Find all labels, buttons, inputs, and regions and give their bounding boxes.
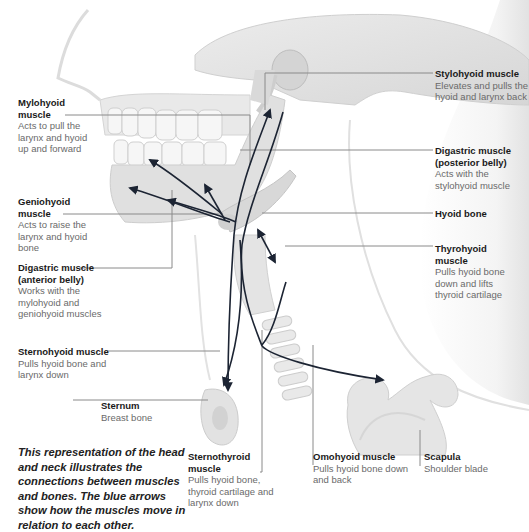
label-desc: Pulls hyoid bone down and back: [313, 463, 423, 486]
label-title: Mylohyoid muscle: [18, 97, 88, 120]
label-title: Sternothyroid muscle: [188, 451, 278, 474]
label-title: Thyrohyoid muscle: [435, 243, 515, 266]
label-thyrohyoid-muscle: Thyrohyoid muscle Pulls hyoid bone down …: [435, 243, 515, 301]
label-sternothyroid-muscle: Sternothyroid muscle Pulls hyoid bone, t…: [188, 451, 278, 509]
figure-caption: This representation of the head and neck…: [18, 445, 193, 532]
label-title: Hyoid bone: [435, 208, 529, 220]
sternum-clavicle: [201, 389, 238, 445]
label-mylohyoid-muscle: Mylohyoid muscle Acts to pull the larynx…: [18, 97, 88, 155]
label-desc: Elevates and pulls the hyoid and larynx …: [435, 80, 529, 103]
label-desc: Pulls hyoid bone, thyroid cartilage and …: [188, 474, 278, 509]
label-hyoid-bone: Hyoid bone: [435, 208, 529, 220]
label-title: Stylohyoid muscle: [435, 68, 529, 80]
label-title: Scapula: [424, 451, 514, 463]
label-desc: Acts to raise the larynx and hyoid bone: [18, 219, 88, 254]
label-desc: Acts to pull the larynx and hyoid up and…: [18, 120, 88, 155]
label-title: Digastric muscle (anterior belly): [18, 262, 118, 285]
label-title: Omohyoid muscle: [313, 451, 423, 463]
label-stylohyoid-muscle: Stylohyoid muscle Elevates and pulls the…: [435, 68, 529, 103]
scapula-bone: [347, 374, 458, 455]
label-desc: Breast bone: [101, 412, 171, 424]
label-digastric-posterior: Digastric muscle (posterior belly) Acts …: [435, 145, 529, 191]
label-scapula: Scapula Shoulder blade: [424, 451, 514, 474]
label-title: Sternum: [101, 400, 171, 412]
label-desc: Acts with the stylohyoid muscle: [435, 168, 529, 191]
label-desc: Works with the mylohyoid and geniohyoid …: [18, 285, 118, 320]
label-desc: Shoulder blade: [424, 463, 514, 475]
label-sternum: Sternum Breast bone: [101, 400, 171, 423]
label-sternohyoid-muscle: Sternohyoid muscle Pulls hyoid bone and …: [18, 346, 128, 381]
label-title: Sternohyoid muscle: [18, 346, 128, 358]
label-geniohyoid-muscle: Geniohyoid muscle Acts to raise the lary…: [18, 196, 88, 254]
label-desc: Pulls hyoid bone and larynx down: [18, 358, 128, 381]
label-title: Geniohyoid muscle: [18, 196, 88, 219]
label-desc: Pulls hyoid bone down and lifts thyroid …: [435, 266, 515, 301]
label-omohyoid-muscle: Omohyoid muscle Pulls hyoid bone down an…: [313, 451, 423, 486]
upper-jaw-teeth: [100, 94, 250, 166]
label-title: Digastric muscle (posterior belly): [435, 145, 529, 168]
label-digastric-anterior: Digastric muscle (anterior belly) Works …: [18, 262, 118, 320]
